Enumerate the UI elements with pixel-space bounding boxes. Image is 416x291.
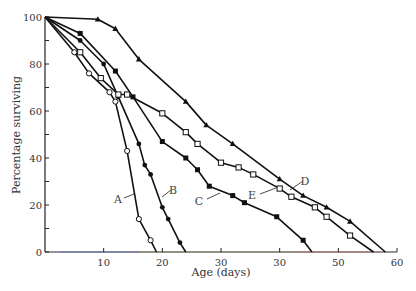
marker-open-circle (72, 50, 77, 55)
y-tick-label: 80 (29, 59, 42, 70)
y-tick-label: 100 (23, 12, 42, 23)
y-tick-label: 20 (29, 200, 42, 211)
survival-chart: 020406080100102030305060 ABCDE Age (days… (0, 0, 416, 291)
marker-filled-square (113, 69, 118, 74)
marker-open-circle (136, 217, 141, 222)
marker-open-square (289, 194, 294, 199)
marker-open-circle (113, 99, 118, 104)
marker-filled-circle (166, 217, 171, 222)
marker-open-circle (86, 71, 91, 76)
marker-filled-square (195, 167, 200, 172)
x-tick-label: 50 (332, 257, 345, 268)
marker-filled-square (274, 214, 279, 219)
marker-open-square (183, 130, 188, 135)
series-line (45, 17, 312, 252)
marker-open-square (125, 92, 130, 97)
marker-open-square (251, 172, 256, 177)
marker-filled-square (78, 31, 83, 36)
series-e (45, 17, 374, 252)
x-tick-label: 30 (273, 257, 286, 268)
label-leader-line (260, 188, 276, 194)
marker-filled-square (230, 193, 235, 198)
marker-filled-circle (142, 163, 147, 168)
curve-label-b: B (169, 184, 177, 197)
marker-filled-circle (101, 62, 106, 67)
curve-label-e: E (248, 189, 256, 202)
marker-filled-circle (160, 205, 165, 210)
curve-label-d: D (301, 175, 310, 188)
marker-filled-circle (78, 38, 83, 43)
marker-open-circle (125, 148, 130, 153)
marker-filled-square (160, 139, 165, 144)
marker-open-circle (107, 90, 112, 95)
marker-open-square (347, 233, 352, 238)
y-axis-title: Percentage surviving (10, 76, 23, 194)
y-tick-label: 40 (29, 153, 42, 164)
marker-open-square (195, 141, 200, 146)
series-a (45, 17, 157, 252)
x-axis-title: Age (days) (190, 266, 250, 279)
curve-label-a: A (113, 193, 123, 206)
marker-open-square (236, 165, 241, 170)
marker-filled-square (183, 156, 188, 161)
marker-filled-circle (178, 240, 183, 245)
y-tick-label: 0 (36, 247, 42, 258)
marker-open-square (324, 214, 329, 219)
series-b (45, 17, 186, 252)
x-tick-label: 20 (156, 257, 169, 268)
series-line (45, 17, 385, 252)
marker-open-square (312, 205, 317, 210)
series-group (45, 16, 385, 252)
marker-filled-square (207, 184, 212, 189)
label-leader-line (124, 194, 134, 198)
marker-filled-circle (148, 172, 153, 177)
marker-open-square (218, 160, 223, 165)
x-tick-label: 60 (391, 257, 404, 268)
marker-open-square (277, 186, 282, 191)
series-line (45, 17, 186, 252)
marker-open-square (98, 76, 103, 81)
marker-filled-circle (136, 142, 141, 147)
marker-open-circle (148, 238, 153, 243)
marker-open-square (78, 50, 83, 55)
x-tick-label: 10 (97, 257, 110, 268)
marker-open-square (116, 92, 121, 97)
series-d (45, 16, 385, 252)
curve-label-c: C (195, 195, 203, 208)
label-leader-line (207, 193, 220, 199)
y-tick-label: 60 (29, 106, 42, 117)
marker-filled-square (242, 200, 247, 205)
marker-filled-square (301, 238, 306, 243)
marker-open-square (160, 111, 165, 116)
series-c (45, 17, 312, 252)
